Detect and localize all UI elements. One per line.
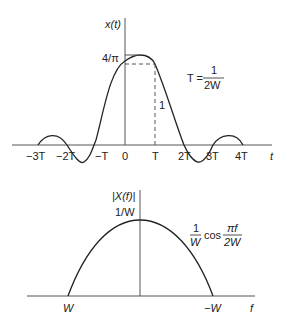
tick-label: −T — [95, 150, 108, 162]
tick-label: −3T — [26, 150, 46, 162]
coef-numerator: 1 — [193, 222, 199, 234]
t-tick-labels: −3T −2T −T 0 T 2T 3T 4T — [26, 150, 248, 162]
frequency-domain-plot: |X(f)| 1/W W −W f 1 W cos πf 2W — [27, 190, 255, 314]
tick-label: 4T — [235, 150, 248, 162]
tick-label: 2T — [178, 150, 191, 162]
t-definition-annotation: T = 1 2W — [187, 64, 224, 91]
xf-peak-label: 1/W — [115, 206, 135, 218]
tick-label-neg-w: −W — [204, 302, 222, 314]
xf-label: |X(f)| — [112, 190, 136, 202]
xt-label: x(t) — [104, 18, 121, 30]
arg-denominator: 2W — [223, 236, 242, 248]
arg-numerator: πf — [227, 222, 238, 234]
tick-label: 3T — [206, 150, 219, 162]
tick-label: −2T — [56, 150, 76, 162]
spectrum-formula-annotation: 1 W cos πf 2W — [190, 222, 242, 248]
level-one-label: 1 — [159, 99, 165, 111]
coef-denominator: W — [190, 236, 202, 248]
peak-label: 4/π — [102, 52, 119, 64]
tick-label-w: W — [63, 302, 75, 314]
time-domain-plot: x(t) 4/π 1 −3T −2T −T 0 T 2T 3T 4T t T =… — [12, 18, 274, 163]
t-axis-label: t — [270, 150, 274, 162]
annotation-denominator: 2W — [204, 79, 221, 91]
annotation-lhs: T = — [187, 72, 203, 84]
tick-label: T — [152, 150, 159, 162]
diagram-canvas: x(t) 4/π 1 −3T −2T −T 0 T 2T 3T 4T t T =… — [0, 0, 288, 330]
cos-function: cos — [204, 229, 222, 241]
tick-label: 0 — [122, 150, 128, 162]
annotation-numerator: 1 — [211, 64, 217, 76]
f-axis-label: f — [250, 302, 254, 314]
